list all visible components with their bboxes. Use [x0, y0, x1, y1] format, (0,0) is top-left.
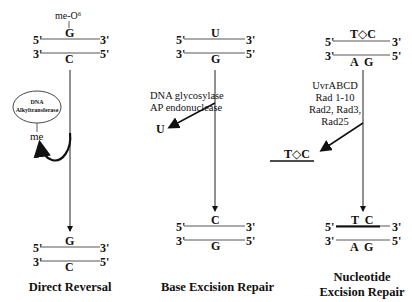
dr-top-s2-left: 3' [33, 48, 42, 60]
dr-top-s2-right: 5' [100, 48, 109, 60]
ber-top-s2-right: 5' [246, 48, 255, 60]
curved-arrow-icon [40, 133, 70, 160]
dr-top-s1-left: 5' [33, 34, 42, 46]
ber-top-s2-left: 3' [176, 48, 185, 60]
ber-bottom-base1: C [211, 214, 220, 226]
ner-top-base1: T◇C [350, 28, 376, 40]
title-line1: Nucleotide [312, 270, 412, 285]
ner-bottom-s1-right: 3' [392, 221, 401, 233]
removed-group-label: me [30, 131, 43, 142]
direct-reversal-graphics [13, 21, 100, 261]
enzyme-line2: Alkyltransferase [13, 106, 61, 114]
enzyme-rad1-10: Rad 1-10 [300, 92, 370, 104]
enzyme-line1: DNA [13, 98, 61, 106]
ner-bottom-base1: T C [351, 214, 373, 226]
ner-top-s2-left: 3' [325, 50, 334, 62]
dr-top-s1-right: 3' [100, 34, 109, 46]
ber-top-base2: G [211, 53, 220, 65]
ner-bottom-s2-right: 5' [392, 235, 401, 247]
dr-top-base1: G [65, 27, 74, 39]
base-excision-graphics [170, 39, 245, 240]
ner-bottom-base2: A G [350, 241, 373, 253]
ner-bottom-s2-left: 3' [325, 235, 334, 247]
ner-bottom-s1-left: 5' [325, 221, 334, 233]
dr-bottom-s1-right: 3' [100, 242, 109, 254]
ner-top-s2-right: 5' [392, 50, 401, 62]
panel-title-direct-reversal: Direct Reversal [20, 280, 120, 295]
panel-title-base-excision: Base Excision Repair [160, 280, 275, 295]
nucleotide-excision-graphics [270, 41, 390, 240]
dr-bottom-base1: G [65, 235, 74, 247]
ber-top-s1-left: 5' [176, 34, 185, 46]
enzyme-label: DNA Alkyltransferase [13, 98, 61, 114]
ner-top-base2: A G [350, 56, 373, 68]
ner-top-s1-right: 3' [392, 36, 401, 48]
modification-label: me-O⁶ [55, 11, 81, 21]
diagram-graphics [0, 0, 412, 302]
title-line2: Excision Repair [312, 285, 412, 300]
enzyme-ap-endonuclease: AP endonuclease [150, 102, 250, 114]
dr-bottom-s2-right: 5' [100, 256, 109, 268]
excised-dimer-label: T◇C [284, 148, 310, 160]
enzyme-rad25: Rad25 [300, 116, 370, 128]
enzyme-rad2-rad3: Rad2, Rad3, [300, 104, 370, 116]
dr-top-base2: C [65, 53, 74, 65]
dr-bottom-s2-left: 3' [33, 256, 42, 268]
dr-bottom-s1-left: 5' [33, 242, 42, 254]
enzyme-dna-glycosylase: DNA glycosylase [150, 90, 250, 102]
removed-base-label: U [156, 123, 165, 135]
ber-bottom-s1-right: 3' [246, 221, 255, 233]
ber-bottom-s2-left: 3' [176, 235, 185, 247]
enzyme-uvrabcd: UvrABCD [300, 80, 370, 92]
dr-bottom-base2: C [65, 261, 74, 273]
ner-top-s1-left: 5' [325, 36, 334, 48]
ber-top-s1-right: 3' [246, 34, 255, 46]
ber-bottom-s1-left: 5' [176, 221, 185, 233]
ber-bottom-s2-right: 5' [246, 235, 255, 247]
panel-title-nucleotide-excision: Nucleotide Excision Repair [312, 270, 412, 300]
ber-top-base1: U [211, 27, 220, 39]
enzyme-list: UvrABCD Rad 1-10 Rad2, Rad3, Rad25 [300, 80, 370, 128]
enzyme-list: DNA glycosylase AP endonuclease [150, 90, 250, 114]
ber-bottom-base2: G [211, 240, 220, 252]
